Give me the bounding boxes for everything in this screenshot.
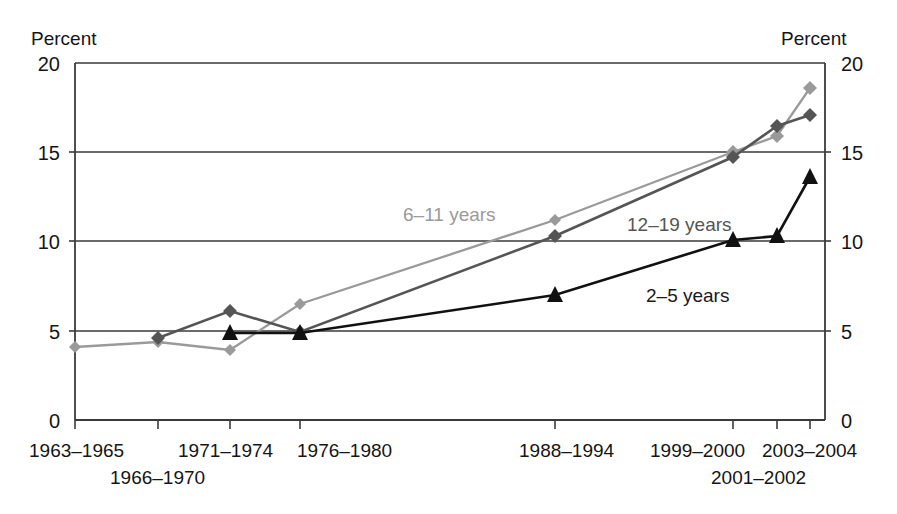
ytick-label-0-left: 0 [49,410,60,432]
marker-point [769,227,785,243]
series-label-2-5-years: 2–5 years [646,285,729,306]
marker-point [294,298,306,310]
ytick-label-15-left: 15 [38,142,60,164]
ytick-label-20-right: 20 [841,53,863,75]
xtick-label-1999-2000: 1999–2000 [650,440,745,461]
marker-point [549,214,561,226]
x-tickmarks [75,420,810,429]
ytick-label-5-right: 5 [841,321,852,343]
series-label-12-19-years: 12–19 years [627,214,732,235]
marker-point [802,168,818,184]
xtick-label-2001-2002: 2001–2002 [711,467,806,488]
ytick-label-10-right: 10 [841,231,863,253]
series-2-5-years-markers [222,168,818,340]
ytick-label-10-left: 10 [38,231,60,253]
y-axis-title-right: Percent [781,28,847,49]
series-label-6-11-years: 6–11 years [403,204,496,225]
ytick-label-5-left: 5 [49,321,60,343]
marker-point [223,304,237,318]
xtick-label-1988-1994: 1988–1994 [519,440,615,461]
xtick-label-1963-1965: 1963–1965 [29,440,124,461]
marker-point [803,108,817,122]
ytick-label-20-left: 20 [38,53,60,75]
ytick-label-15-right: 15 [841,142,863,164]
line-chart: Percent Percent 20 15 10 5 0 20 15 10 5 … [0,0,897,514]
xtick-label-2003-2004: 2003–2004 [762,440,858,461]
chart-container: Percent Percent 20 15 10 5 0 20 15 10 5 … [0,0,897,514]
ytick-label-0-right: 0 [841,410,852,432]
series-2-5-years-line [230,177,810,333]
xtick-label-1966-1970: 1966–1970 [110,467,205,488]
marker-point [803,81,817,95]
series-2-5-years [222,168,818,340]
xtick-label-1976-1980: 1976–1980 [297,440,392,461]
marker-point [69,341,81,353]
marker-point [224,344,236,356]
xtick-label-1971-1974: 1971–1974 [178,440,274,461]
y-axis-title-left: Percent [31,28,97,49]
